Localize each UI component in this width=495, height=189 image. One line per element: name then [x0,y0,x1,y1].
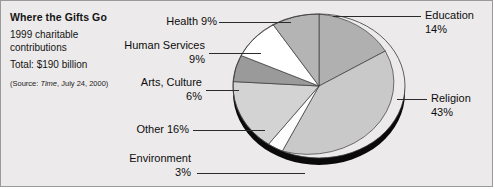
infographic-figure: Where the Gifts Go 1999 charitable contr… [0,0,493,187]
label-arts-culture: Arts, Culture 6% [107,76,202,103]
leader-line-environment [197,173,305,174]
label-health: Health 9% [119,15,217,29]
label-environment: Environment 3% [87,152,191,179]
leader-line-health [219,22,291,23]
pie-chart [1,1,493,187]
leader-line-other [193,130,265,131]
leader-line-education [333,16,421,17]
label-human-services: Human Services 9% [87,39,205,66]
leader-line-arts-culture [206,90,239,91]
label-other: Other 16% [101,123,189,137]
label-education: Education 14% [425,9,493,36]
label-religion: Religion 43% [431,92,493,119]
leader-line-human-services [209,53,261,54]
leader-line-religion [397,99,427,100]
